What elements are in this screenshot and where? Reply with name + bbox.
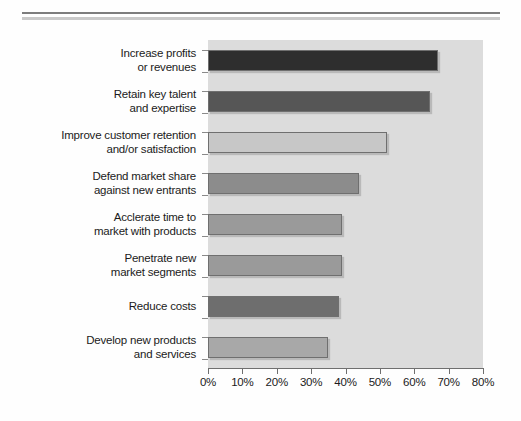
y-axis-label-line: or revenues [0, 61, 196, 75]
bar[interactable] [208, 50, 438, 71]
bar[interactable] [208, 214, 342, 235]
category-tick [202, 236, 208, 237]
bar[interactable] [208, 296, 339, 317]
y-axis-label: Improve customer retentionand/or satisfa… [0, 129, 196, 156]
bar-row [208, 286, 483, 327]
bar[interactable] [208, 255, 342, 276]
x-axis-tick [277, 368, 278, 374]
y-axis-label-line: market segments [0, 266, 196, 280]
x-axis-tick-label: 40% [334, 376, 356, 388]
x-axis-tick [483, 368, 484, 374]
y-axis-label-line: Penetrate new [0, 252, 196, 266]
y-axis-label-line: Defend market share [0, 170, 196, 184]
y-axis-label-line: Increase profits [0, 47, 196, 61]
y-axis-label-line: and services [0, 348, 196, 362]
y-axis-label-line: Reduce costs [0, 300, 196, 314]
x-axis-tick-label: 70% [437, 376, 459, 388]
bar-row [208, 245, 483, 286]
bar-row [208, 327, 483, 368]
category-tick [202, 154, 208, 155]
category-tick [202, 132, 208, 133]
category-tick [202, 214, 208, 215]
x-axis-tick [311, 368, 312, 374]
x-axis-tick [414, 368, 415, 374]
bar[interactable] [208, 337, 328, 358]
x-axis-tick [242, 368, 243, 374]
bar[interactable] [208, 91, 430, 112]
x-axis-tick-label: 80% [472, 376, 494, 388]
bar-row [208, 204, 483, 245]
x-axis-tick-label: 20% [266, 376, 288, 388]
category-tick [202, 337, 208, 338]
y-axis-label-line: and expertise [0, 102, 196, 116]
y-axis-label-line: against new entrants [0, 184, 196, 198]
category-tick [202, 91, 208, 92]
bar-row [208, 40, 483, 81]
category-tick [202, 359, 208, 360]
x-axis-tick-label: 0% [200, 376, 216, 388]
y-axis-label-line: Improve customer retention [0, 129, 196, 143]
bar-row [208, 81, 483, 122]
category-tick [202, 113, 208, 114]
x-axis-tick [208, 368, 209, 374]
chart-figure: Increase profitsor revenuesRetain key ta… [0, 0, 521, 421]
x-axis-tick [380, 368, 381, 374]
x-axis-tick-label: 50% [369, 376, 391, 388]
header-rule-dark [22, 12, 500, 14]
category-tick [202, 296, 208, 297]
y-axis-label: Acclerate time tomarket with products [0, 211, 196, 238]
y-axis-label-line: market with products [0, 225, 196, 239]
category-tick [202, 255, 208, 256]
category-tick [202, 72, 208, 73]
bar[interactable] [208, 173, 359, 194]
bar[interactable] [208, 132, 387, 153]
category-tick [202, 50, 208, 51]
y-axis-label: Develop new productsand services [0, 334, 196, 361]
header-rules [22, 12, 500, 22]
category-tick [202, 318, 208, 319]
y-axis-label-line: Develop new products [0, 334, 196, 348]
y-axis-labels: Increase profitsor revenuesRetain key ta… [0, 40, 202, 368]
x-axis-tick-label: 60% [403, 376, 425, 388]
y-axis-label: Defend market shareagainst new entrants [0, 170, 196, 197]
header-rule-light [22, 17, 500, 20]
y-axis-label: Retain key talentand expertise [0, 88, 196, 115]
category-tick [202, 173, 208, 174]
x-axis-tick-label: 30% [300, 376, 322, 388]
x-axis-tick-label: 10% [231, 376, 253, 388]
category-tick [202, 195, 208, 196]
x-axis-tick [449, 368, 450, 374]
category-tick [202, 277, 208, 278]
bar-series [208, 40, 483, 368]
y-axis-label-line: Retain key talent [0, 88, 196, 102]
y-axis-label: Increase profitsor revenues [0, 47, 196, 74]
bar-row [208, 163, 483, 204]
y-axis-label-line: Acclerate time to [0, 211, 196, 225]
y-axis-label-line: and/or satisfaction [0, 143, 196, 157]
bar-row [208, 122, 483, 163]
y-axis-label: Reduce costs [0, 300, 196, 314]
x-axis-tick [346, 368, 347, 374]
y-axis-label: Penetrate newmarket segments [0, 252, 196, 279]
